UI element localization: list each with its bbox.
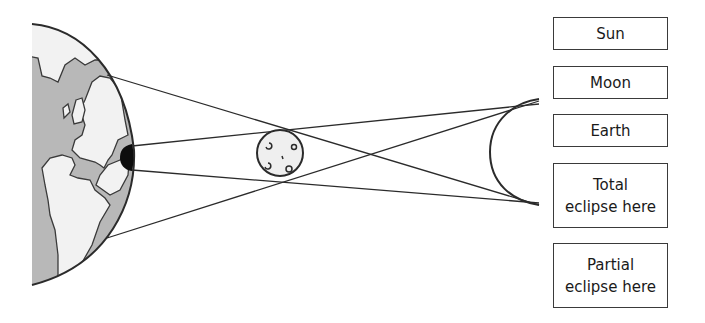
sight-lines <box>107 75 539 238</box>
label-moon-text: Moon <box>590 72 631 94</box>
label-moon[interactable]: Moon <box>553 66 668 99</box>
label-total-eclipse[interactable]: Total eclipse here <box>553 163 668 228</box>
moon-body <box>257 130 303 176</box>
label-partial-line2: eclipse here <box>565 276 656 298</box>
label-sun[interactable]: Sun <box>553 17 668 50</box>
earth-globe <box>28 20 134 285</box>
label-sun-text: Sun <box>596 23 625 45</box>
label-total-line1: Total <box>593 174 628 196</box>
label-earth[interactable]: Earth <box>553 114 668 147</box>
label-partial-eclipse[interactable]: Partial eclipse here <box>553 243 668 308</box>
label-partial-line1: Partial <box>587 254 634 276</box>
label-earth-text: Earth <box>590 120 630 142</box>
crescent-body <box>490 99 539 205</box>
label-total-line2: eclipse here <box>565 196 656 218</box>
